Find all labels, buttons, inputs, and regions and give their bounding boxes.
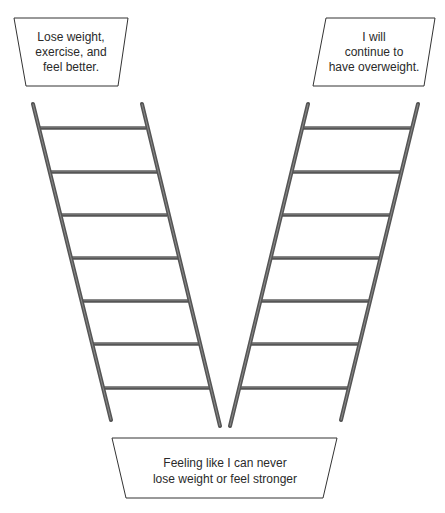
bottom-box-text: Feeling like I can never lose weight or … <box>120 455 330 487</box>
top-left-line-3: feel better. <box>20 60 122 75</box>
left-ladder-rungs <box>39 128 210 388</box>
top-right-line-3: have overweight. <box>318 60 430 75</box>
bottom-line-1: Feeling like I can never <box>120 455 330 471</box>
left-ladder <box>33 104 220 426</box>
right-ladder <box>230 104 418 426</box>
top-left-box-text: Lose weight, exercise, and feel better. <box>20 30 122 75</box>
top-right-line-2: continue to <box>318 45 430 60</box>
right-ladder-rungs-highlight <box>240 127 413 387</box>
bottom-line-2: lose weight or feel stronger <box>120 471 330 487</box>
left-ladder-rungs-highlight <box>39 127 210 387</box>
top-left-line-2: exercise, and <box>20 45 122 60</box>
right-ladder-rungs <box>240 128 413 388</box>
top-left-line-1: Lose weight, <box>20 30 122 45</box>
top-right-line-1: I will <box>318 30 430 45</box>
top-right-box-text: I will continue to have overweight. <box>318 30 430 75</box>
ladder-diagram <box>0 0 445 513</box>
